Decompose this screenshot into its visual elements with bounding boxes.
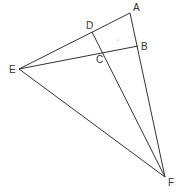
label-e: E <box>9 64 16 75</box>
label-f: F <box>168 177 174 188</box>
stray-dot <box>117 39 118 40</box>
label-d: D <box>86 20 93 31</box>
segment-af <box>130 13 165 177</box>
segment-ea <box>19 13 130 69</box>
label-b: B <box>141 41 148 52</box>
segment-eb <box>19 46 138 69</box>
label-c: C <box>96 54 103 65</box>
segment-ef <box>19 69 165 177</box>
labels: A B C D E F <box>9 2 174 188</box>
geometry-diagram: A B C D E F <box>0 0 181 193</box>
segments <box>19 13 165 177</box>
label-a: A <box>133 2 140 13</box>
